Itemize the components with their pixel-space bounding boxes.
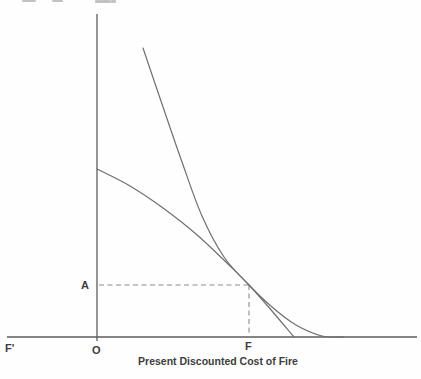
plot-canvas	[0, 0, 421, 379]
origin-label-O: O	[92, 345, 101, 356]
y-axis-point-label-A: A	[81, 280, 89, 291]
economics-tangency-figure: A F' O F Present Discounted Cost of Fire	[0, 0, 421, 379]
x-axis-left-label-F-prime: F'	[5, 343, 14, 354]
tangent-gentle-curve	[97, 169, 294, 337]
convex-steep-curve	[143, 48, 344, 337]
x-axis-title: Present Discounted Cost of Fire	[138, 356, 298, 367]
x-axis-point-label-F: F	[245, 341, 252, 352]
